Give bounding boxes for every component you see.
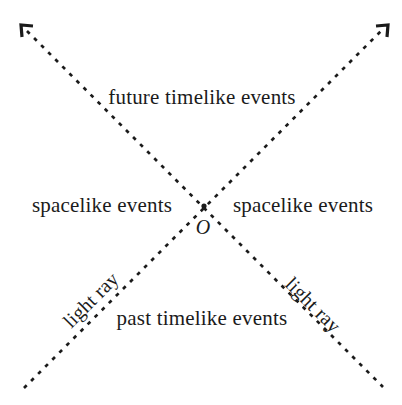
future-timelike-events-label: future timelike events	[108, 85, 296, 110]
spacelike-events-right-label: spacelike events	[233, 193, 373, 218]
past-timelike-events-label: past timelike events	[117, 306, 288, 331]
origin-dot	[201, 203, 206, 208]
spacetime-diagram: future timelike events spacelike events …	[0, 0, 402, 405]
origin-label: O	[196, 216, 211, 239]
arrowhead-up-right-icon	[376, 25, 388, 37]
spacelike-events-left-label: spacelike events	[32, 193, 172, 218]
